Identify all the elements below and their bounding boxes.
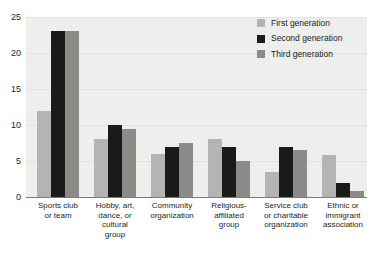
x-tick-label: Sports clubor team (28, 201, 88, 220)
x-tick-label: Service clubor charitableorganization (256, 201, 316, 230)
legend-label: Second generation (271, 34, 342, 43)
legend-item-second-generation[interactable]: Second generation (257, 34, 377, 44)
x-axis: Sports clubor team Hobby, art,dance, orc… (26, 201, 367, 260)
bar-third-generation[interactable] (236, 161, 250, 197)
x-axis-line (26, 197, 367, 198)
legend-item-third-generation[interactable]: Third generation (257, 49, 377, 59)
bar-third-generation[interactable] (65, 31, 79, 197)
bar-first-generation[interactable] (151, 154, 165, 197)
x-tick-label: Communityorganization (142, 201, 202, 220)
bar-group (94, 17, 136, 197)
x-tick-label: Ethnic orimmigrantassociation (313, 201, 373, 230)
legend-swatch-icon (257, 35, 265, 43)
legend-item-first-generation[interactable]: First generation (257, 18, 377, 28)
y-tick-label: 15 (11, 85, 21, 94)
bar-third-generation[interactable] (350, 191, 364, 197)
bar-first-generation[interactable] (94, 139, 108, 197)
bar-second-generation[interactable] (279, 147, 293, 197)
bar-second-generation[interactable] (51, 31, 65, 197)
bar-group (37, 17, 79, 197)
bar-third-generation[interactable] (179, 143, 193, 197)
legend: First generation Second generation Third… (257, 18, 377, 65)
y-axis: 25 20 15 10 5 0 (0, 0, 24, 214)
bar-first-generation[interactable] (208, 139, 222, 197)
bar-first-generation[interactable] (265, 172, 279, 197)
bar-second-generation[interactable] (222, 147, 236, 197)
bar-first-generation[interactable] (37, 111, 51, 197)
y-tick-label: 20 (11, 49, 21, 58)
y-tick-label: 25 (11, 13, 21, 22)
bar-second-generation[interactable] (336, 183, 350, 197)
legend-swatch-icon (257, 19, 265, 27)
y-tick-label: 0 (16, 193, 21, 202)
y-tick-label: 10 (11, 121, 21, 130)
bar-third-generation[interactable] (122, 129, 136, 197)
bar-second-generation[interactable] (108, 125, 122, 197)
y-tick-label: 5 (16, 157, 21, 166)
bar-chart: 25 20 15 10 5 0 (0, 0, 387, 260)
legend-swatch-icon (257, 50, 265, 58)
x-tick-label: Hobby, art,dance, orculturalgroup (85, 201, 145, 239)
bar-group (151, 17, 193, 197)
bar-third-generation[interactable] (293, 150, 307, 197)
legend-label: First generation (271, 19, 330, 28)
bar-second-generation[interactable] (165, 147, 179, 197)
x-tick-label: Religious-affiliatedgroup (199, 201, 259, 230)
bar-first-generation[interactable] (322, 155, 336, 197)
legend-label: Third generation (271, 50, 333, 59)
bar-group (208, 17, 250, 197)
